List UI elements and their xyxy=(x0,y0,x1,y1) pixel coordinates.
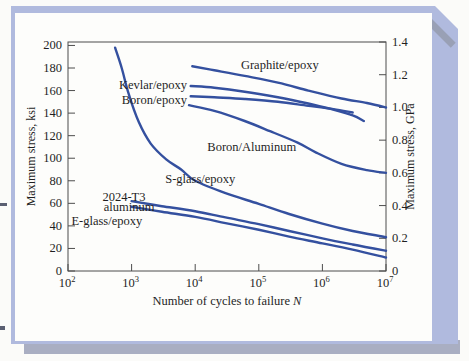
x-tick-label: 107 xyxy=(377,274,394,290)
y-right-tick-label: 1.4 xyxy=(392,35,408,49)
scan-artifact-left-1 xyxy=(0,203,7,206)
y-left-tick-label: 160 xyxy=(43,84,62,98)
curve-label: Graphite/epoxy xyxy=(241,58,320,72)
plot-border xyxy=(68,42,386,271)
y-right-tick-label: 1.2 xyxy=(392,68,408,82)
y-left-tick-label: 120 xyxy=(43,129,62,143)
x-axis-title: Number of cycles to failure N xyxy=(153,294,303,308)
y-left-tick-label: 100 xyxy=(43,151,62,165)
y-left-tick-label: 80 xyxy=(50,174,63,188)
x-tick-label: 103 xyxy=(122,274,139,290)
y-left-tick-label: 40 xyxy=(50,219,63,233)
sn-fatigue-chart: 02040608010012014016018020000.20.40.60.8… xyxy=(15,13,432,341)
curve-e-glass-epoxy xyxy=(132,207,386,258)
y-left-tick-label: 200 xyxy=(43,38,62,52)
x-tick-label: 104 xyxy=(186,274,204,290)
curve-label: Kevlar/epoxy xyxy=(119,78,188,92)
y-right-axis-title: Maximum stress, GPa xyxy=(403,103,417,210)
curve-label: Boron/epoxy xyxy=(122,93,188,107)
y-right-tick-label: 0.2 xyxy=(392,231,408,245)
y-left-tick-label: 180 xyxy=(43,61,62,75)
curve-graphite-epoxy xyxy=(192,66,386,107)
curve-2024-t3-aluminum xyxy=(132,201,386,251)
curve-label: S-glass/epoxy xyxy=(165,172,236,186)
y-left-axis-title: Maximum stress, ksi xyxy=(24,106,38,206)
y-left-tick-label: 60 xyxy=(50,196,63,210)
x-tick-label: 105 xyxy=(249,274,266,290)
scan-artifact-left-2 xyxy=(0,326,5,330)
y-left-tick-label: 140 xyxy=(43,106,62,120)
curve-label: aluminum xyxy=(104,200,155,214)
x-tick-label: 106 xyxy=(313,274,330,290)
chart-area: 02040608010012014016018020000.20.40.60.8… xyxy=(15,13,432,341)
y-left-tick-label: 20 xyxy=(50,241,63,255)
curve-label: E-glass/epoxy xyxy=(71,214,143,228)
curve-label: Boron/Aluminum xyxy=(207,140,296,154)
x-tick-label: 102 xyxy=(59,274,76,290)
curve-kevlar-epoxy xyxy=(191,86,364,121)
